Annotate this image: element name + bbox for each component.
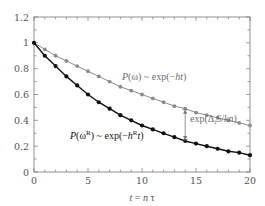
difference-arrow (183, 110, 188, 140)
data-point (97, 100, 101, 104)
x-tick-label: 20 (244, 175, 256, 186)
data-point (140, 93, 144, 97)
y-tick-label: 1 (23, 37, 29, 48)
data-point (86, 69, 90, 73)
data-point (237, 121, 241, 125)
data-point (248, 124, 252, 128)
x-tick-label: 15 (190, 175, 202, 186)
data-point (237, 151, 241, 155)
data-point (162, 100, 166, 104)
data-point (65, 59, 69, 63)
y-tick-label: 0 (23, 167, 29, 178)
data-point (172, 135, 176, 139)
x-tick-label: 10 (136, 175, 148, 186)
data-point (97, 75, 101, 79)
data-point (194, 141, 198, 145)
y-tick-label: 0.2 (14, 141, 29, 152)
tick-labels: 0510152000.20.40.60.811.2 (14, 12, 256, 187)
data-point (108, 80, 112, 84)
data-point (140, 123, 144, 127)
data-point (118, 113, 122, 117)
data-point (173, 104, 177, 108)
arrow-label: exp(ΔiS/kn) (190, 113, 237, 126)
x-tick-label: 0 (31, 175, 37, 186)
x-axis-title: t = n τ (130, 192, 155, 203)
y-tick-label: 1.2 (14, 12, 29, 23)
data-point (86, 92, 90, 96)
data-point (54, 54, 58, 58)
gray-curve-label: P(ω) ~ exp(−ht) (121, 71, 186, 83)
data-point (226, 149, 230, 153)
data-point (248, 153, 252, 157)
data-point (129, 118, 133, 122)
data-point (43, 47, 47, 51)
y-tick-label: 0.8 (14, 63, 29, 74)
data-point (54, 64, 58, 68)
data-point (129, 89, 133, 93)
data-point (32, 41, 36, 45)
data-point (64, 74, 68, 78)
black-curve-label: P(ωR) ~ exp(−hRt) (69, 129, 144, 142)
y-tick-label: 0.6 (14, 89, 29, 100)
data-point (43, 54, 47, 58)
y-tick-label: 0.4 (14, 115, 29, 126)
x-tick-label: 5 (85, 175, 91, 186)
data-point (216, 147, 220, 151)
data-point (119, 85, 123, 89)
data-point (108, 107, 112, 111)
data-point (205, 144, 209, 148)
data-point (151, 127, 155, 131)
decay-chart: 0510152000.20.40.60.811.2 P(ω) ~ exp(−ht… (0, 0, 265, 206)
data-point (162, 131, 166, 135)
data-point (75, 83, 79, 87)
data-point (151, 96, 155, 100)
data-point (75, 64, 79, 68)
